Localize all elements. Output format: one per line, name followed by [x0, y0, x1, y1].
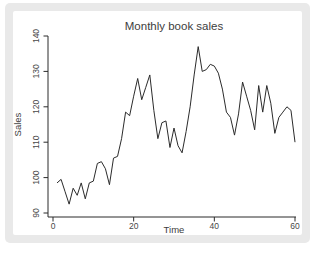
- y-tick-label: 100: [31, 170, 41, 184]
- y-tick-label: 140: [31, 29, 41, 43]
- y-tick-label: 120: [31, 99, 41, 113]
- figure: Monthly book sales Time Sales 0204060 90…: [0, 0, 320, 255]
- x-tick-label: 60: [290, 221, 300, 231]
- axes: [48, 36, 296, 217]
- chart-title: Monthly book sales: [125, 20, 224, 32]
- y-tick-label: 90: [31, 208, 41, 218]
- x-tick-label: 0: [51, 221, 56, 231]
- x-axis-label: Time: [164, 224, 185, 235]
- y-axis-ticks: 90100110120130140: [31, 29, 48, 218]
- y-tick-label: 130: [31, 64, 41, 78]
- chart-canvas: Monthly book sales Time Sales 0204060 90…: [0, 0, 320, 255]
- y-tick-label: 110: [31, 135, 41, 149]
- y-axis-label: Sales: [12, 112, 23, 136]
- x-tick-label: 40: [210, 221, 220, 231]
- sales-series-line: [57, 47, 295, 205]
- x-tick-label: 20: [129, 221, 139, 231]
